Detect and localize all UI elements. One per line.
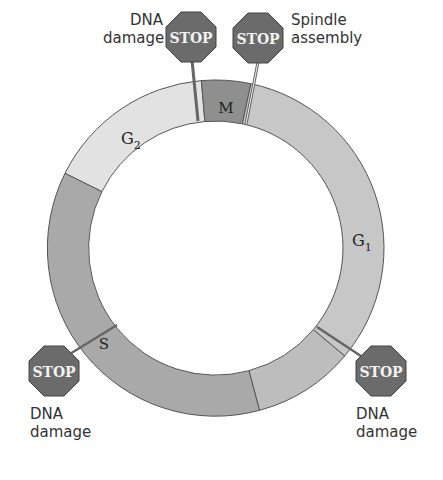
caption-g2-dna-damage: DNA damage <box>103 11 163 47</box>
svg-text:STOP: STOP <box>359 364 403 380</box>
stop-sign-g1: STOP <box>356 346 406 396</box>
phase-g1-segment <box>242 84 384 356</box>
svg-text:STOP: STOP <box>169 30 213 46</box>
caption-line: DNA <box>356 405 417 423</box>
caption-line: assembly <box>291 29 362 47</box>
caption-line: Spindle <box>291 11 362 29</box>
phase-label-m: M <box>218 99 233 117</box>
caption-line: damage <box>356 423 417 441</box>
caption-line: DNA <box>103 11 163 29</box>
svg-text:STOP: STOP <box>236 31 280 47</box>
caption-g1-dna-damage: DNA damage <box>356 405 417 441</box>
stop-sign-m: STOP <box>233 13 283 63</box>
svg-text:STOP: STOP <box>32 364 76 380</box>
caption-line: damage <box>103 29 163 47</box>
caption-s-dna-damage: DNA damage <box>30 405 91 441</box>
caption-line: damage <box>30 423 91 441</box>
phase-g2-segment <box>65 81 205 192</box>
caption-spindle-assembly: Spindle assembly <box>291 11 362 47</box>
phase-label-s: S <box>99 335 109 353</box>
stop-sign-g2: STOP <box>166 12 216 62</box>
stop-sign-s: STOP <box>29 346 79 396</box>
caption-line: DNA <box>30 405 91 423</box>
